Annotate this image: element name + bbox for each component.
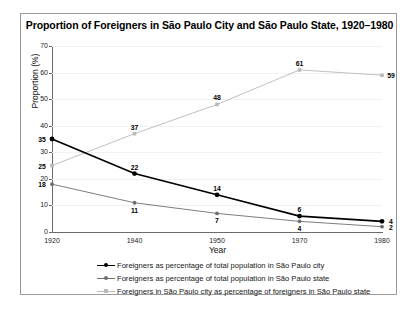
point-value-label: 59 xyxy=(387,72,395,79)
series-point xyxy=(215,192,220,197)
legend-item[interactable]: Foreigners as percentage of total popula… xyxy=(97,272,397,284)
series-point xyxy=(380,225,384,229)
legend-marker-icon xyxy=(97,261,115,270)
y-tick-mark xyxy=(49,73,52,74)
legend-item[interactable]: Foreigners as percentage of total popula… xyxy=(97,259,397,271)
series-point xyxy=(133,132,137,136)
series-lines xyxy=(52,46,382,232)
point-value-label: 48 xyxy=(213,94,221,101)
legend-item[interactable]: Foreigners in São Paulo city as percenta… xyxy=(97,285,397,297)
series-point xyxy=(50,182,54,186)
legend-marker-icon xyxy=(97,287,115,296)
series-point xyxy=(50,137,55,142)
series-point xyxy=(297,214,302,219)
y-tick-label: 20 xyxy=(22,175,48,183)
y-tick-mark xyxy=(49,99,52,100)
x-axis-line xyxy=(52,232,383,233)
legend-label: Foreigners as percentage of total popula… xyxy=(117,274,329,283)
point-value-label: 11 xyxy=(131,206,138,213)
x-axis-label: Year xyxy=(52,245,383,255)
series-point xyxy=(215,103,219,107)
x-tick-label: 1970 xyxy=(270,237,330,244)
y-tick-mark xyxy=(49,179,52,180)
point-value-label: 7 xyxy=(215,217,219,224)
legend-label: Foreigners in São Paulo city as percenta… xyxy=(117,287,370,296)
point-value-label: 6 xyxy=(298,206,302,213)
point-value-label: 37 xyxy=(131,123,139,130)
point-value-label: 4 xyxy=(298,225,302,232)
series-point xyxy=(50,164,54,168)
series-point xyxy=(380,73,384,77)
y-tick-label: 50 xyxy=(22,95,48,103)
legend-label: Foreigners as percentage of total popula… xyxy=(117,261,324,270)
y-tick-label: 60 xyxy=(22,69,48,77)
y-tick-mark xyxy=(49,232,52,233)
series-point xyxy=(215,212,219,216)
y-tick-label: 30 xyxy=(22,148,48,156)
point-value-label: 35 xyxy=(38,136,46,143)
y-tick-mark xyxy=(49,126,52,127)
series-point xyxy=(132,171,137,176)
x-tick-label: 1950 xyxy=(187,237,247,244)
legend-marker-icon xyxy=(97,274,115,283)
point-value-label: 2 xyxy=(389,223,393,230)
y-tick-label: 40 xyxy=(22,122,48,130)
series-line xyxy=(52,139,382,221)
y-tick-label: 10 xyxy=(22,201,48,209)
x-tick-label: 1980 xyxy=(352,237,412,244)
chart-frame: Proportion of Foreigners in São Paulo Ci… xyxy=(20,13,397,295)
y-tick-mark xyxy=(49,205,52,206)
plot-area: 3522146418117422537486159 xyxy=(52,46,382,232)
chart-legend: Foreigners as percentage of total popula… xyxy=(97,259,397,298)
series-point xyxy=(298,68,302,72)
y-tick-mark xyxy=(49,152,52,153)
y-tick-label: 0 xyxy=(22,228,48,236)
chart-title: Proportion of Foreigners in São Paulo Ci… xyxy=(21,19,398,31)
series-point xyxy=(133,201,137,205)
x-tick-label: 1920 xyxy=(22,237,82,244)
x-tick-label: 1940 xyxy=(105,237,165,244)
series-point xyxy=(380,219,385,224)
point-value-label: 22 xyxy=(131,163,139,170)
series-line xyxy=(52,70,382,166)
point-value-label: 25 xyxy=(38,162,46,169)
y-tick-mark xyxy=(49,46,52,47)
y-tick-label: 70 xyxy=(22,42,48,50)
point-value-label: 14 xyxy=(213,184,221,191)
series-point xyxy=(298,219,302,223)
point-value-label: 61 xyxy=(296,59,304,66)
